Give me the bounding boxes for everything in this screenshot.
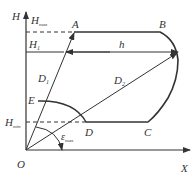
d1-label: D1 bbox=[37, 72, 49, 85]
angle-arc bbox=[36, 127, 62, 150]
h-axis-label: H bbox=[11, 10, 21, 22]
point-b-label: B bbox=[159, 18, 166, 30]
point-d-label: D bbox=[84, 126, 93, 138]
point-a-label: A bbox=[71, 18, 79, 30]
zone-boundary bbox=[74, 32, 178, 122]
point-c-label: C bbox=[144, 126, 152, 138]
h-max-label: Hmax bbox=[30, 14, 48, 27]
d1-line bbox=[26, 33, 74, 150]
h-min-label: Hmin bbox=[4, 116, 21, 129]
x-axis-label: X bbox=[180, 162, 189, 174]
zone-diagram: H X O Hmax H1 Hmin A B C D E D1 D2 h εma… bbox=[0, 0, 194, 182]
h1-label: H1 bbox=[28, 38, 40, 51]
d2-label: D2 bbox=[113, 74, 125, 87]
origin-label: O bbox=[17, 158, 25, 170]
point-e-label: E bbox=[27, 94, 35, 106]
h-distance-label: h bbox=[119, 38, 125, 50]
angle-label: εmax bbox=[61, 131, 74, 143]
